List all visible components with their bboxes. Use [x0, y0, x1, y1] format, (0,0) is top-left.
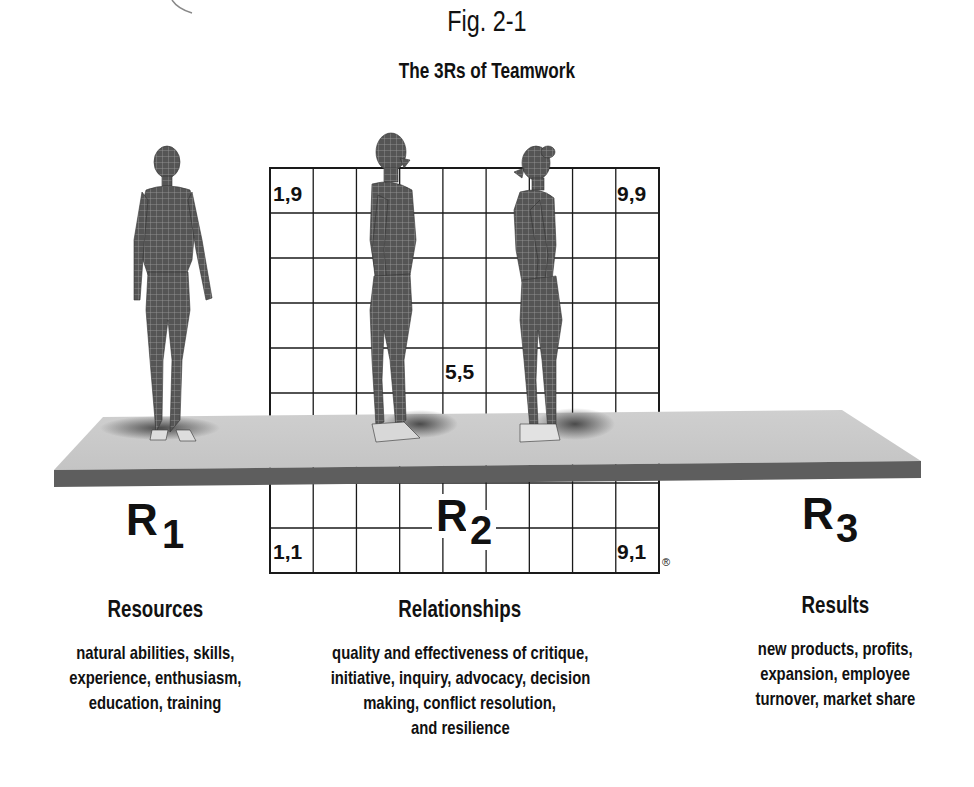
grid-label-9-9: 9,9 [617, 182, 646, 206]
column-body: new products, profits, expansion, employ… [700, 636, 970, 711]
column-line: quality and effectiveness of critique, [332, 640, 588, 665]
column-body: natural abilities, skills, experience, e… [20, 640, 290, 715]
column-line: new products, profits, [758, 636, 913, 661]
column-body: quality and effectiveness of critique, i… [280, 640, 640, 740]
registered-trademark-mark: ® [662, 556, 670, 568]
r3-letter: R [802, 492, 834, 536]
r1-subscript: 1 [162, 514, 184, 554]
column-line: and resilience [411, 715, 510, 740]
column-heading: Results [801, 590, 869, 620]
grid-label-9-1: 9,1 [617, 540, 646, 564]
r3-subscript: 3 [836, 508, 858, 548]
r1-letter: R [126, 498, 158, 542]
r2-subscript: 2 [466, 510, 496, 550]
column-line: education, training [89, 690, 222, 715]
figure-woman-front [134, 146, 212, 441]
grid-label-1-1: 1,1 [273, 540, 302, 564]
platform [54, 408, 921, 487]
column-heading: Resources [107, 594, 203, 624]
column-relationships: Relationships quality and effectiveness … [280, 594, 640, 740]
column-line: expansion, employee [760, 661, 910, 686]
column-line: initiative, inquiry, advocacy, decision [330, 665, 590, 690]
column-line: turnover, market share [755, 686, 915, 711]
column-line: making, conflict resolution, [364, 690, 557, 715]
column-line: experience, enthusiasm, [69, 665, 241, 690]
grid-label-5-5: 5,5 [445, 360, 474, 384]
column-heading: Relationships [399, 594, 522, 624]
column-results: Results new products, profits, expansion… [700, 590, 970, 711]
grid-label-1-9: 1,9 [273, 182, 302, 206]
column-resources: Resources natural abilities, skills, exp… [20, 594, 290, 715]
column-line: natural abilities, skills, [76, 640, 234, 665]
